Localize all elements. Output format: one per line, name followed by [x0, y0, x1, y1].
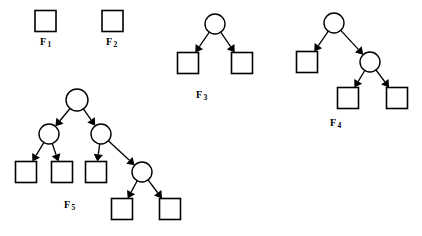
- figure-label-subscript: 3: [202, 93, 207, 102]
- f3-edge-root-left: [195, 32, 209, 52]
- figure-label-f1: F1: [40, 36, 51, 49]
- f2-leaf: [102, 11, 123, 32]
- figure-label-subscript: 1: [46, 40, 51, 49]
- f5-edge-root-right: [83, 109, 95, 126]
- f5-inner-left: [39, 124, 59, 144]
- f4-edge-root-left: [314, 31, 328, 51]
- figure-label-f5: F5: [64, 199, 75, 212]
- f4-root: [324, 13, 344, 33]
- f5-edge-root-left: [55, 108, 70, 126]
- figure-label-f3: F3: [196, 89, 207, 102]
- f5-leaf-4: [112, 199, 133, 220]
- f4-edge-root-inner: [341, 30, 363, 54]
- f4-edge-inner-right: [376, 70, 389, 88]
- f4-inner-right: [360, 52, 380, 72]
- f4-leaf-mid: [338, 88, 359, 109]
- f5-edge-deep-leaf5: [148, 180, 162, 199]
- figure-label-f4: F4: [330, 117, 341, 130]
- f5-edge-right-leaf3: [94, 144, 103, 162]
- figure-label-subscript: 4: [336, 121, 341, 130]
- f3-root: [205, 14, 225, 34]
- f4-edge-inner-mid: [354, 71, 365, 88]
- figure-label-subscript: 5: [70, 203, 75, 212]
- f5-edge-deep-leaf4: [127, 181, 137, 199]
- f5-inner-deep: [132, 162, 152, 182]
- f5-inner-right: [91, 124, 111, 144]
- f5-edge-left-leaf2: [52, 143, 61, 161]
- f3-edge-root-right: [221, 32, 235, 52]
- f5-leaf-2: [52, 162, 73, 183]
- f5-edge-left-leaf1: [32, 143, 44, 162]
- f4-leaf-right: [387, 88, 408, 109]
- f4-leaf-left: [297, 52, 318, 73]
- f5-leaf-1: [16, 162, 37, 183]
- f5-edge-right-deep: [108, 141, 134, 165]
- figure-label-subscript: 2: [112, 40, 117, 49]
- figure-label-f2: F2: [106, 36, 117, 49]
- f1-leaf: [35, 11, 56, 32]
- f5-leaf-5: [160, 199, 181, 220]
- figure-canvas: F1 F2 F3 F4 F5: [0, 0, 422, 236]
- f5-leaf-3: [86, 162, 107, 183]
- f5-root: [66, 89, 88, 111]
- f3-leaf-right: [232, 53, 253, 74]
- f3-leaf-left: [178, 53, 199, 74]
